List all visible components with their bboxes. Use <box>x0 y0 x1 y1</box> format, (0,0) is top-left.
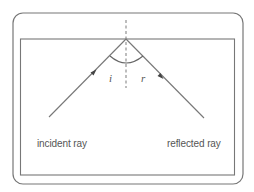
incident-ray-label: incident ray <box>37 138 87 149</box>
incident-ray-line <box>49 39 126 117</box>
reflected-ray-line <box>126 39 204 118</box>
reflected-ray-label: reflected ray <box>167 138 221 149</box>
inner-frame <box>21 39 235 175</box>
angle-i-label: i <box>109 72 112 84</box>
angle-r-label: r <box>141 72 145 84</box>
reflection-diagram <box>0 0 254 192</box>
